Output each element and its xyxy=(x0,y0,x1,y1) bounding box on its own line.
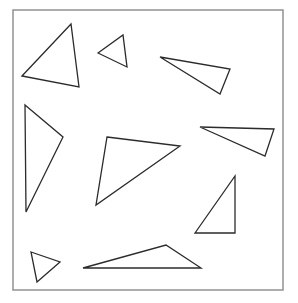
triangles-figure xyxy=(0,0,298,303)
